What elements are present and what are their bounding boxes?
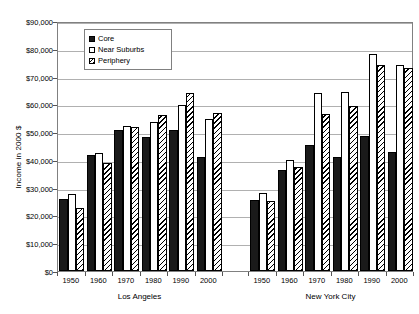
- chart-legend: CoreNear SuburbsPeriphery: [84, 29, 172, 70]
- legend-label: Core: [98, 34, 114, 43]
- y-tick-label: $30,000: [0, 185, 53, 194]
- y-tick-label: $70,000: [0, 74, 53, 83]
- bar-new-york-city-1950-peri: [267, 201, 275, 271]
- legend-item-near: Near Suburbs: [89, 44, 167, 55]
- bar-new-york-city-1960-peri: [294, 167, 302, 271]
- x-tick-mark: [413, 272, 414, 276]
- bar-los-angeles-1980-core: [142, 137, 150, 271]
- bar-new-york-city-1980-near: [341, 92, 349, 271]
- x-tick-label: 2000: [191, 276, 225, 285]
- income-bar-chart: Income in 2000 $ $0$10,000$20,000$30,000…: [0, 0, 419, 314]
- y-tick-label: $80,000: [0, 46, 53, 55]
- legend-swatch-core-icon: [89, 36, 95, 42]
- x-tick-mark: [195, 272, 196, 276]
- y-tick-label: $20,000: [0, 212, 53, 221]
- legend-label: Periphery: [98, 56, 130, 65]
- x-tick-label: 2000: [382, 276, 416, 285]
- group-label-new-york-city: New York City: [256, 292, 406, 301]
- bar-los-angeles-1990-core: [169, 130, 177, 271]
- y-tick-label: $50,000: [0, 129, 53, 138]
- x-tick-mark: [85, 272, 86, 276]
- bar-new-york-city-2000-core: [388, 152, 396, 271]
- x-tick-mark: [222, 272, 223, 276]
- bar-los-angeles-1970-peri: [131, 127, 139, 271]
- bar-los-angeles-1960-peri: [103, 163, 111, 271]
- legend-label: Near Suburbs: [98, 45, 144, 54]
- bar-los-angeles-2000-near: [205, 119, 213, 271]
- legend-item-peri: Periphery: [89, 55, 167, 66]
- legend-item-core: Core: [89, 33, 167, 44]
- bar-los-angeles-1990-peri: [186, 93, 194, 271]
- bar-los-angeles-1960-near: [95, 153, 103, 271]
- y-tick-label: $60,000: [0, 101, 53, 110]
- y-tick-label: $10,000: [0, 240, 53, 249]
- legend-swatch-near-icon: [89, 47, 95, 53]
- bar-new-york-city-1960-core: [278, 170, 286, 271]
- legend-swatch-peri-icon: [89, 58, 95, 64]
- bar-new-york-city-1970-near: [314, 93, 322, 271]
- x-tick-mark: [167, 272, 168, 276]
- x-tick-mark: [358, 272, 359, 276]
- bar-los-angeles-1980-peri: [158, 115, 166, 271]
- group-label-los-angeles: Los Angeles: [65, 292, 215, 301]
- bar-new-york-city-1950-core: [250, 200, 258, 271]
- bar-new-york-city-1960-near: [286, 160, 294, 271]
- bar-new-york-city-1980-core: [333, 157, 341, 271]
- x-tick-mark: [248, 272, 249, 276]
- bar-los-angeles-1970-near: [123, 126, 131, 271]
- y-tick-label: $90,000: [0, 18, 53, 27]
- gridline: [58, 106, 412, 107]
- x-tick-mark: [303, 272, 304, 276]
- bar-new-york-city-2000-near: [396, 65, 404, 271]
- x-tick-mark: [140, 272, 141, 276]
- bar-los-angeles-2000-peri: [213, 113, 221, 271]
- x-tick-mark: [57, 272, 58, 276]
- bar-new-york-city-1990-peri: [377, 65, 385, 271]
- gridline: [58, 23, 412, 24]
- bar-los-angeles-1980-near: [150, 122, 158, 271]
- bar-los-angeles-2000-core: [197, 157, 205, 271]
- gridline: [58, 134, 412, 135]
- bar-new-york-city-1970-core: [305, 145, 313, 271]
- bar-los-angeles-1950-peri: [76, 208, 84, 271]
- bar-los-angeles-1960-core: [87, 155, 95, 271]
- bar-new-york-city-1950-near: [259, 193, 267, 271]
- x-tick-mark: [386, 272, 387, 276]
- bar-los-angeles-1970-core: [114, 130, 122, 271]
- x-tick-mark: [276, 272, 277, 276]
- y-tick-label: $0: [0, 268, 53, 277]
- bar-new-york-city-1980-peri: [349, 106, 357, 271]
- bar-los-angeles-1990-near: [178, 105, 186, 271]
- y-tick-label: $40,000: [0, 157, 53, 166]
- bar-new-york-city-1990-near: [369, 54, 377, 272]
- bar-new-york-city-1970-peri: [322, 114, 330, 271]
- bar-new-york-city-1990-core: [360, 136, 368, 271]
- bar-new-york-city-2000-peri: [404, 68, 412, 271]
- bar-los-angeles-1950-core: [59, 199, 67, 271]
- x-tick-mark: [112, 272, 113, 276]
- x-tick-mark: [331, 272, 332, 276]
- gridline: [58, 79, 412, 80]
- bar-los-angeles-1950-near: [68, 194, 76, 271]
